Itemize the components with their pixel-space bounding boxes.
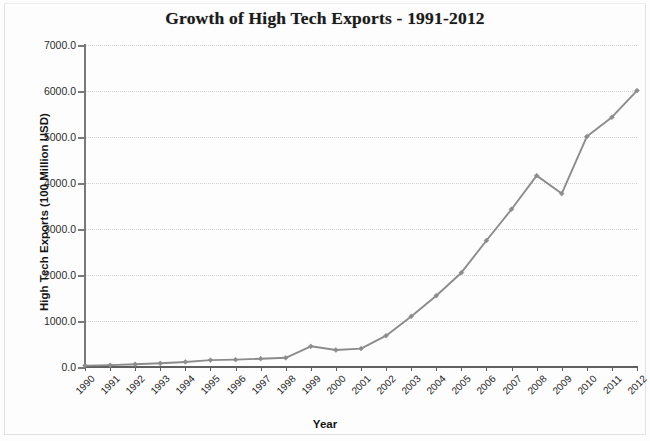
data-point-marker: [208, 358, 213, 363]
series-plot: [0, 0, 650, 441]
data-point-marker: [258, 356, 263, 361]
data-point-marker: [158, 361, 163, 366]
series-line: [85, 91, 637, 366]
data-point-marker: [183, 360, 188, 365]
chart-figure: Growth of High Tech Exports - 1991-2012 …: [0, 0, 650, 441]
data-point-marker: [108, 363, 113, 368]
data-point-marker: [233, 357, 238, 362]
data-point-marker: [334, 348, 339, 353]
data-point-marker: [133, 362, 138, 367]
data-point-marker: [83, 363, 88, 368]
